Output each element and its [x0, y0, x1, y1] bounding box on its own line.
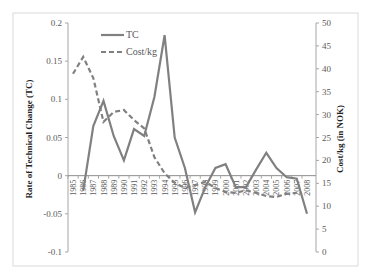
left-tick-label: -0.1 [48, 247, 62, 257]
right-tick-label: 20 [322, 155, 332, 165]
legend-tc-label: TC [126, 29, 139, 40]
line-chart: 0.20.150.10.050-0.05-0.1 504540353025201… [0, 0, 372, 277]
x-tick-label: 1992 [140, 180, 149, 196]
left-axis-title: Rate of Technical Change (TC) [24, 79, 34, 198]
x-tick-label: 1989 [110, 180, 119, 196]
right-tick-label: 35 [322, 87, 332, 97]
right-tick-label: 5 [322, 224, 327, 234]
x-tick-label: 1985 [69, 180, 78, 196]
x-tick-label: 2000 [222, 180, 231, 196]
right-tick-label: 10 [322, 201, 332, 211]
x-tick-label: 1991 [130, 180, 139, 196]
x-tick-label: 1990 [120, 180, 129, 196]
x-tick-label: 1988 [100, 180, 109, 196]
left-tick-label: 0.1 [51, 94, 62, 104]
x-tick-label: 2008 [303, 180, 312, 196]
legend-cost-label: Cost/kg [126, 46, 157, 57]
right-tick-label: 40 [322, 64, 332, 74]
right-tick-label: 15 [322, 178, 332, 188]
left-tick-label: 0.05 [46, 133, 62, 143]
right-tick-label: 0 [322, 247, 327, 257]
right-axis-title: Cost/kg (in NOK) [335, 105, 345, 173]
left-tick-label: 0.15 [46, 56, 62, 66]
x-tick-label: 2004 [262, 180, 271, 196]
left-tick-label: 0 [58, 171, 63, 181]
right-tick-label: 50 [322, 18, 332, 28]
right-tick-label: 45 [322, 41, 332, 51]
x-tick-label: 1997 [191, 180, 200, 196]
left-tick-label: 0.2 [51, 18, 62, 28]
x-tick-label: 1993 [150, 180, 159, 196]
x-tick-label: 1987 [89, 180, 98, 196]
x-tick-label: 2005 [272, 180, 281, 196]
right-tick-label: 25 [322, 133, 332, 143]
x-tick-label: 1994 [161, 180, 170, 196]
chart-border [13, 13, 358, 266]
right-tick-label: 30 [322, 110, 332, 120]
left-tick-label: -0.05 [43, 209, 62, 219]
